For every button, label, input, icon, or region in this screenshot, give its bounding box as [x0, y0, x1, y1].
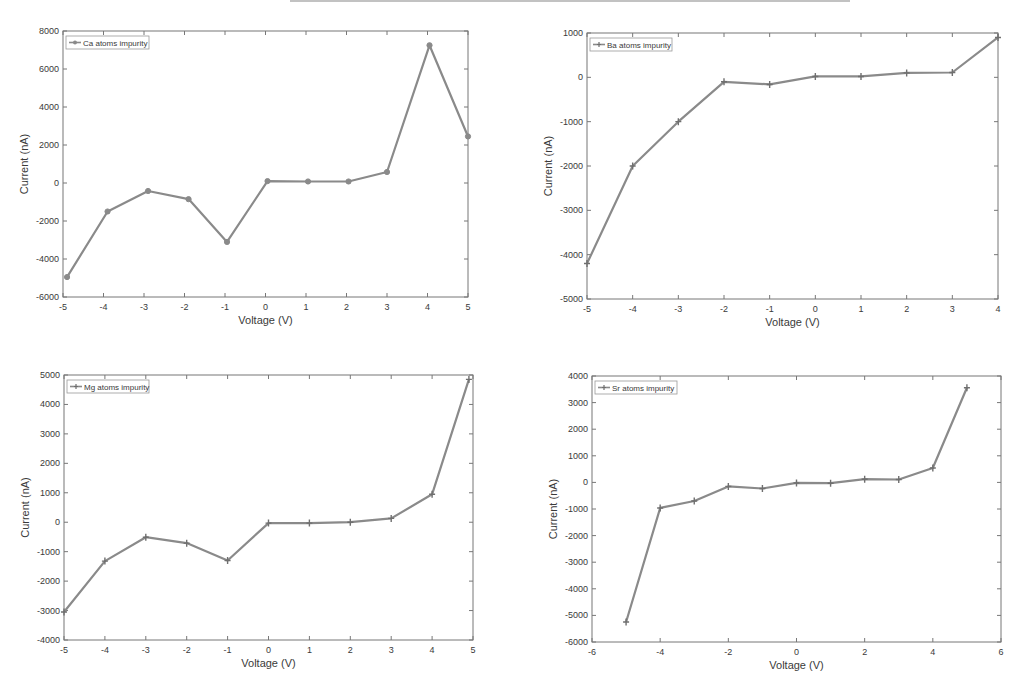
y-tick-label: 0 — [578, 72, 583, 82]
x-tick-label: -4 — [656, 647, 664, 657]
y-tick-label: -3000 — [37, 606, 60, 616]
data-point-marker — [346, 179, 351, 184]
y-tick-label: -4000 — [565, 584, 588, 594]
x-tick-label: 2 — [904, 304, 909, 314]
data-point-marker — [105, 209, 110, 214]
x-tick-label: 2 — [348, 645, 353, 655]
y-tick-label: 0 — [583, 477, 588, 487]
data-point-marker — [725, 483, 731, 490]
data-point-marker — [145, 188, 150, 193]
y-tick-label: -2000 — [37, 576, 60, 586]
data-point-marker — [427, 43, 432, 48]
x-tick-label: 3 — [389, 645, 394, 655]
y-tick-label: 4000 — [40, 399, 60, 409]
y-tick-label: 3000 — [568, 398, 588, 408]
y-tick-label: 2000 — [39, 140, 59, 150]
x-tick-label: 4 — [930, 647, 935, 657]
data-series-line — [587, 37, 998, 263]
data-point-marker — [759, 485, 765, 492]
data-point-marker — [224, 239, 229, 244]
x-tick-label: 6 — [998, 647, 1003, 657]
x-tick-label: 1 — [858, 304, 863, 314]
y-tick-label: 2000 — [40, 458, 60, 468]
y-tick-label: -1000 — [37, 547, 60, 557]
legend: Mg atoms impurity — [67, 380, 149, 393]
chart-sr: -6-4-20246-6000-5000-4000-3000-2000-1000… — [547, 371, 1004, 671]
legend: Ca atoms impurity — [66, 36, 149, 49]
figure-canvas: -5-4-3-2-1012345-6000-4000-2000020004000… — [0, 0, 1034, 693]
data-point-marker — [767, 81, 773, 88]
x-axis-label: Voltage (V) — [765, 316, 819, 328]
x-tick-label: 5 — [465, 302, 470, 312]
x-tick-label: 0 — [263, 302, 268, 312]
x-tick-label: -2 — [183, 645, 191, 655]
data-point-marker — [465, 134, 470, 139]
y-axis-label: Current (nA) — [542, 136, 554, 197]
x-tick-label: -3 — [142, 645, 150, 655]
x-axis-label: Voltage (V) — [241, 657, 295, 669]
legend: Sr atoms impurity — [595, 381, 677, 394]
chart-ba: -5-4-3-2-101234-5000-4000-3000-2000-1000… — [542, 28, 1001, 328]
y-tick-label: -6000 — [36, 292, 59, 302]
y-tick-label: 4000 — [39, 102, 59, 112]
data-point-marker — [265, 179, 270, 184]
y-tick-label: -5000 — [565, 610, 588, 620]
data-point-marker — [623, 619, 629, 626]
y-tick-label: -2000 — [560, 161, 583, 171]
data-point-marker — [64, 274, 69, 279]
y-tick-label: -6000 — [565, 637, 588, 647]
data-point-marker — [862, 476, 868, 483]
data-point-marker — [347, 519, 353, 526]
y-axis-label: Current (nA) — [547, 479, 559, 540]
data-point-marker — [828, 480, 834, 487]
legend-marker-icon — [73, 41, 77, 45]
x-tick-label: -2 — [720, 304, 728, 314]
y-tick-label: 5000 — [40, 370, 60, 380]
x-tick-label: -2 — [180, 302, 188, 312]
data-point-marker — [904, 69, 910, 76]
legend-label: Mg atoms impurity — [84, 383, 149, 392]
y-tick-label: 2000 — [568, 424, 588, 434]
x-tick-label: -4 — [99, 302, 107, 312]
y-tick-label: -2000 — [36, 216, 59, 226]
x-axis-label: Voltage (V) — [769, 659, 823, 671]
y-tick-label: -1000 — [560, 117, 583, 127]
legend: Ba atoms impurity — [590, 38, 672, 51]
data-point-marker — [812, 73, 818, 80]
y-axis-label: Current (nA) — [19, 477, 31, 538]
axes-frame — [592, 376, 1001, 642]
x-tick-label: -5 — [60, 645, 68, 655]
x-tick-label: 0 — [266, 645, 271, 655]
x-tick-label: -5 — [59, 302, 67, 312]
data-point-marker — [657, 504, 663, 511]
data-series-line — [64, 379, 469, 612]
chart-ca: -5-4-3-2-1012345-6000-4000-2000020004000… — [18, 26, 471, 326]
x-axis-label: Voltage (V) — [238, 314, 292, 326]
x-tick-label: -1 — [221, 302, 229, 312]
x-tick-label: -5 — [583, 304, 591, 314]
x-tick-label: -3 — [140, 302, 148, 312]
x-tick-label: -6 — [588, 647, 596, 657]
legend-label: Ba atoms impurity — [607, 41, 671, 50]
x-tick-label: 0 — [813, 304, 818, 314]
x-tick-label: -3 — [674, 304, 682, 314]
y-tick-label: 4000 — [568, 371, 588, 381]
x-tick-label: 2 — [344, 302, 349, 312]
y-tick-label: -4000 — [37, 635, 60, 645]
y-tick-label: 3000 — [40, 429, 60, 439]
y-tick-label: 0 — [54, 178, 59, 188]
data-point-marker — [184, 540, 190, 547]
y-tick-label: -3000 — [560, 205, 583, 215]
y-axis-label: Current (nA) — [18, 134, 30, 195]
legend-label: Ca atoms impurity — [83, 39, 147, 48]
x-tick-label: 3 — [384, 302, 389, 312]
y-tick-label: 0 — [55, 517, 60, 527]
x-tick-label: -4 — [101, 645, 109, 655]
y-tick-label: 1000 — [563, 28, 583, 38]
x-tick-label: 2 — [862, 647, 867, 657]
x-tick-label: 1 — [303, 302, 308, 312]
y-tick-label: 1000 — [568, 451, 588, 461]
axes-frame — [63, 31, 468, 297]
data-point-marker — [896, 476, 902, 483]
y-tick-label: 1000 — [40, 488, 60, 498]
